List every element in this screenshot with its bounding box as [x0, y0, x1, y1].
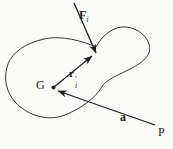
rigid-body-force-diagram: Fi r′i G a P [0, 0, 173, 149]
position-prime-subscript: ′i [75, 77, 77, 88]
force-label: Fi [79, 9, 89, 24]
force-subscript: i [86, 15, 88, 24]
a-vector-arrow [58, 91, 155, 125]
body-outline [6, 27, 150, 118]
position-symbol: r [69, 67, 74, 79]
position-subscript: i [75, 83, 77, 89]
a-vector-label: a [120, 111, 126, 123]
point-p-label: P [158, 126, 165, 138]
center-of-gravity-dot [52, 86, 56, 90]
centroid-label: G [36, 79, 45, 91]
position-vector-label: r′i [69, 67, 77, 88]
